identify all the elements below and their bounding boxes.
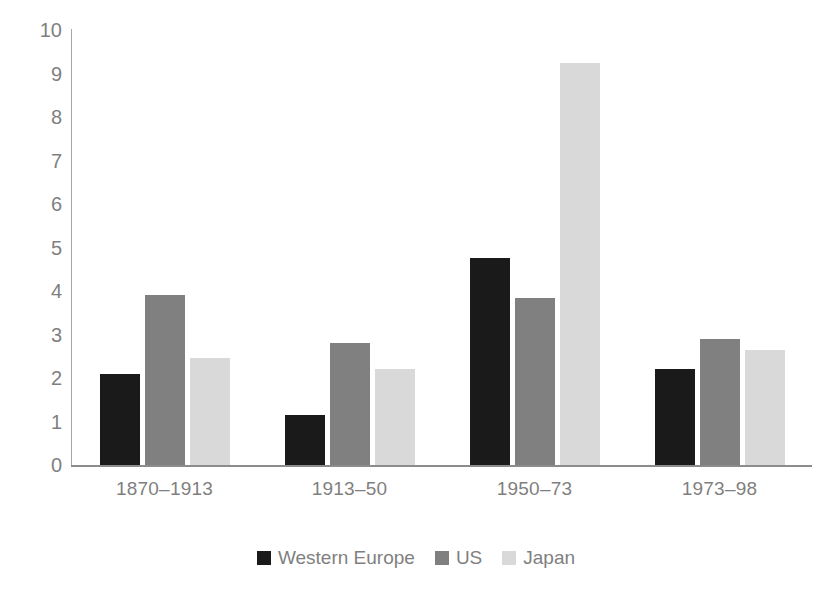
y-axis-tick-label: 8: [10, 107, 62, 127]
bar-group-bars: [627, 0, 812, 465]
bar-group: [627, 0, 812, 465]
bar-group: [72, 0, 257, 465]
x-axis-category-labels: 1870–19131913–501950–731973–98: [72, 478, 812, 500]
bar[interactable]: [515, 298, 555, 465]
y-axis-tick-label: 10: [10, 20, 62, 40]
y-axis-tick-label: 1: [10, 412, 62, 432]
legend-swatch-icon: [502, 551, 516, 565]
bar[interactable]: [190, 358, 230, 465]
legend-item[interactable]: Western Europe: [257, 548, 415, 567]
y-axis-tick-label: 5: [10, 238, 62, 258]
bar-group-bars: [257, 0, 442, 465]
bar-group-bars: [72, 0, 257, 465]
y-axis-tick-label: 7: [10, 151, 62, 171]
x-axis-category-label: 1913–50: [257, 478, 442, 500]
bar-group: [442, 0, 627, 465]
y-axis-tick-label: 2: [10, 368, 62, 388]
y-axis-tick-label: 6: [10, 194, 62, 214]
bar[interactable]: [330, 343, 370, 465]
bar-group: [257, 0, 442, 465]
legend-item[interactable]: US: [435, 548, 482, 567]
y-axis-tick-label: 0: [10, 455, 62, 475]
y-axis-tick-labels: 109876543210: [0, 0, 62, 597]
bar-groups: [72, 0, 812, 465]
bar[interactable]: [560, 63, 600, 465]
bar[interactable]: [655, 369, 695, 465]
legend-item[interactable]: Japan: [502, 548, 575, 567]
legend-label: US: [456, 548, 482, 567]
legend-label: Japan: [523, 548, 575, 567]
legend-label: Western Europe: [278, 548, 415, 567]
y-axis-tick-label: 3: [10, 325, 62, 345]
y-axis-tick-label: 9: [10, 64, 62, 84]
y-axis-tick-label: 4: [10, 281, 62, 301]
x-axis-category-label: 1950–73: [442, 478, 627, 500]
x-axis-category-label: 1973–98: [627, 478, 812, 500]
bar[interactable]: [470, 258, 510, 465]
bar-group-bars: [442, 0, 627, 465]
bar[interactable]: [285, 415, 325, 465]
legend-swatch-icon: [435, 551, 449, 565]
x-axis-category-label: 1870–1913: [72, 478, 257, 500]
chart-legend: Western EuropeUSJapan: [0, 548, 832, 567]
bar[interactable]: [375, 369, 415, 465]
bar-chart: 109876543210 1870–19131913–501950–731973…: [0, 0, 832, 597]
x-axis-line: [71, 465, 812, 467]
bar[interactable]: [745, 350, 785, 465]
bar[interactable]: [100, 374, 140, 465]
bar[interactable]: [145, 295, 185, 465]
legend-swatch-icon: [257, 551, 271, 565]
bar[interactable]: [700, 339, 740, 465]
